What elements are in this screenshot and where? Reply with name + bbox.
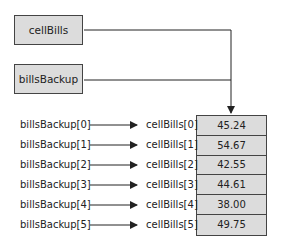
mapping-row: billsBackup[3] cellBills[3] <box>0 175 196 195</box>
element-label: cellBills[2] <box>146 155 198 175</box>
alias-label: billsBackup[4] <box>20 195 91 215</box>
mapping-row: billsBackup[5] cellBills[5] <box>0 215 196 235</box>
mapping-row: billsBackup[1] cellBills[1] <box>0 135 196 155</box>
mapping-row: billsBackup[0] cellBills[0] <box>0 115 196 135</box>
array-memory-block: 45.24 54.67 42.55 44.61 38.00 49.75 <box>196 115 267 236</box>
array-cell: 54.67 <box>197 136 266 156</box>
reference-box-cellbills: cellBills <box>14 15 83 45</box>
alias-label: billsBackup[2] <box>20 155 91 175</box>
reference-label: billsBackup <box>19 73 78 85</box>
reference-box-billsbackup: billsBackup <box>14 64 83 94</box>
array-cell: 45.24 <box>197 116 266 136</box>
element-label: cellBills[5] <box>146 215 198 235</box>
array-cell: 44.61 <box>197 175 266 195</box>
mapping-row: billsBackup[2] cellBills[2] <box>0 155 196 175</box>
array-cell: 49.75 <box>197 215 266 235</box>
reference-label: cellBills <box>29 24 69 36</box>
element-label: cellBills[1] <box>146 135 198 155</box>
alias-label: billsBackup[1] <box>20 135 91 155</box>
array-cell: 42.55 <box>197 156 266 176</box>
alias-label: billsBackup[5] <box>20 215 91 235</box>
alias-label: billsBackup[0] <box>20 115 91 135</box>
element-label: cellBills[4] <box>146 195 198 215</box>
array-cell: 38.00 <box>197 195 266 215</box>
element-label: cellBills[0] <box>146 115 198 135</box>
alias-label: billsBackup[3] <box>20 175 91 195</box>
element-label: cellBills[3] <box>146 175 198 195</box>
mapping-row: billsBackup[4] cellBills[4] <box>0 195 196 215</box>
